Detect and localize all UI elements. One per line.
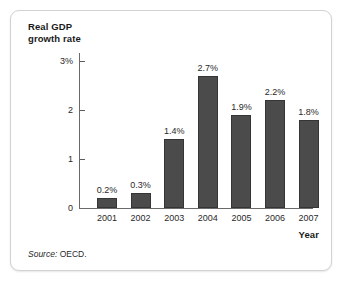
bar-value-label: 2.7% [188, 63, 228, 73]
y-axis-tick-label: 0 [27, 203, 73, 213]
x-axis-tick-label: 2007 [292, 213, 326, 223]
source-note: Source: OECD. [28, 249, 87, 259]
bar-value-label: 1.9% [221, 102, 261, 112]
x-axis-tick-label: 2005 [224, 213, 258, 223]
bar [97, 198, 117, 208]
bar [231, 115, 251, 208]
bar-value-label: 0.3% [121, 180, 161, 190]
chart-figure-frame: Real GDP growth rate Year 0123% 0.2%0.3%… [10, 10, 332, 271]
source-value: OECD. [60, 249, 87, 259]
y-axis-tick-mark [80, 110, 85, 111]
bar-chart-plot: Real GDP growth rate Year 0123% 0.2%0.3%… [11, 11, 333, 272]
bar [131, 193, 151, 208]
bar [198, 76, 218, 208]
y-axis-tick-label: 2 [27, 105, 73, 115]
source-label: Source: [28, 249, 57, 259]
bar [164, 139, 184, 208]
y-axis-title: Real GDP growth rate [28, 21, 106, 44]
bar-value-label: 1.4% [154, 126, 194, 136]
x-axis-tick-label: 2003 [157, 213, 191, 223]
y-axis-tick-mark [80, 159, 85, 160]
bar-value-label: 2.2% [255, 87, 295, 97]
x-axis-title: Year [279, 229, 319, 241]
y-axis-line [79, 53, 80, 208]
y-axis-tick-label: 1 [27, 154, 73, 164]
x-axis-tick-label: 2006 [258, 213, 292, 223]
bar [265, 100, 285, 208]
bar [299, 120, 319, 208]
x-axis-tick-label: 2004 [191, 213, 225, 223]
bar-value-label: 1.8% [289, 107, 329, 117]
x-axis-line [79, 208, 313, 209]
y-axis-tick-mark [80, 61, 85, 62]
x-axis-tick-label: 2002 [124, 213, 158, 223]
x-axis-tick-label: 2001 [90, 213, 124, 223]
y-axis-tick-label: 3% [27, 56, 73, 66]
